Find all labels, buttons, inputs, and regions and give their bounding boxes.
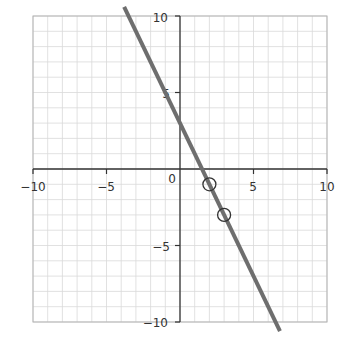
- x-tick-label-neg5: −5: [97, 180, 115, 194]
- chart-canvas: −10 −5 0 5 10 10 5 −5 −10: [0, 0, 348, 342]
- y-tick-label-neg5: −5: [152, 240, 170, 254]
- y-tick-label-10: 10: [153, 11, 168, 25]
- x-tick-label-10: 10: [319, 180, 334, 194]
- tick-labels: −10 −5 0 5 10 10 5 −5 −10: [20, 11, 334, 330]
- x-tick-label-5: 5: [249, 180, 257, 194]
- x-tick-label-neg10: −10: [20, 180, 45, 194]
- y-tick-label-neg10: −10: [143, 316, 168, 330]
- origin-label: 0: [168, 172, 176, 186]
